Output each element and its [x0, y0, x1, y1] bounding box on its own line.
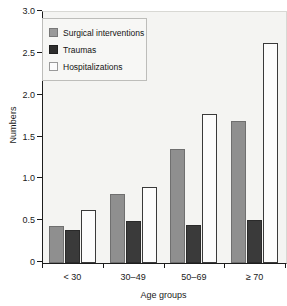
x-tick-mark-3 [224, 263, 225, 268]
legend-item-hospitalizations: Hospitalizations [49, 58, 141, 75]
legend-swatch-surgical [49, 28, 58, 37]
chart-legend: Surgical interventions Traumas Hospitali… [42, 18, 147, 81]
x-tick-label-1: 30–49 [98, 272, 168, 282]
legend-item-traumas: Traumas [49, 41, 141, 58]
legend-label-hospitalizations: Hospitalizations [63, 62, 123, 72]
legend-label-traumas: Traumas [63, 45, 96, 55]
x-tick-mark-2 [164, 263, 165, 268]
bar-chart-figure: Numbers 00.51.01.52.02.53.0 < 3030–4950–… [0, 0, 287, 306]
x-tick-mark-0 [42, 263, 43, 268]
legend-item-surgical: Surgical interventions [49, 24, 141, 41]
x-tick-label-0: < 30 [37, 272, 107, 282]
x-tick-label-3: ≥ 70 [220, 272, 287, 282]
legend-swatch-traumas [49, 45, 58, 54]
legend-label-surgical: Surgical interventions [63, 28, 144, 38]
x-tick-label-2: 50–69 [159, 272, 229, 282]
x-tick-mark-1 [103, 263, 104, 268]
x-tick-mark-4 [285, 263, 286, 268]
x-axis-label: Age groups [42, 290, 285, 300]
legend-swatch-hospitalizations [49, 62, 58, 71]
